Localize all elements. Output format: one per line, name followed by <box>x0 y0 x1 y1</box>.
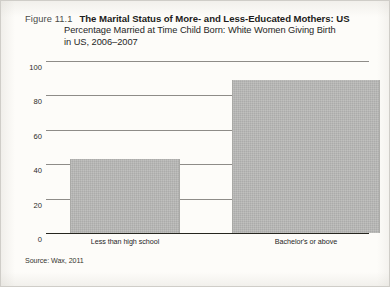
y-tick-label-0: 0 <box>38 235 42 244</box>
caption-title-row: Figure 11.1 The Marital Status of More- … <box>25 13 375 24</box>
y-tick-label-40: 40 <box>34 166 42 175</box>
y-tick-label-80: 80 <box>34 97 42 106</box>
figure-subtitle-line-1: Percentage Married at Time Child Born: W… <box>64 24 375 36</box>
figure-title: The Marital Status of More- and Less-Edu… <box>79 13 349 24</box>
x-axis-baseline <box>46 233 369 234</box>
bar-chart: 020406080100 Less than high schoolBachel… <box>25 55 369 251</box>
figure-caption: Figure 11.1 The Marital Status of More- … <box>25 13 375 49</box>
y-tick-label-60: 60 <box>34 131 42 140</box>
y-tick-label-20: 20 <box>34 200 42 209</box>
figure-subtitle-line-2: in US, 2006–2007 <box>64 36 375 48</box>
x-category-label-2: Bachelor's or above <box>275 237 337 246</box>
figure-number-label: Figure 11.1 <box>25 14 72 24</box>
bar-1 <box>70 159 180 233</box>
gridline-100 <box>46 61 369 62</box>
y-axis-tick-labels: 020406080100 <box>25 61 42 233</box>
figure-page: Figure 11.1 The Marital Status of More- … <box>0 0 390 287</box>
source-note: Source: Wax, 2011 <box>25 257 84 265</box>
plot-area <box>46 61 369 233</box>
bar-2 <box>232 80 380 233</box>
y-tick-label-100: 100 <box>29 63 42 72</box>
x-category-label-1: Less than high school <box>91 237 159 246</box>
